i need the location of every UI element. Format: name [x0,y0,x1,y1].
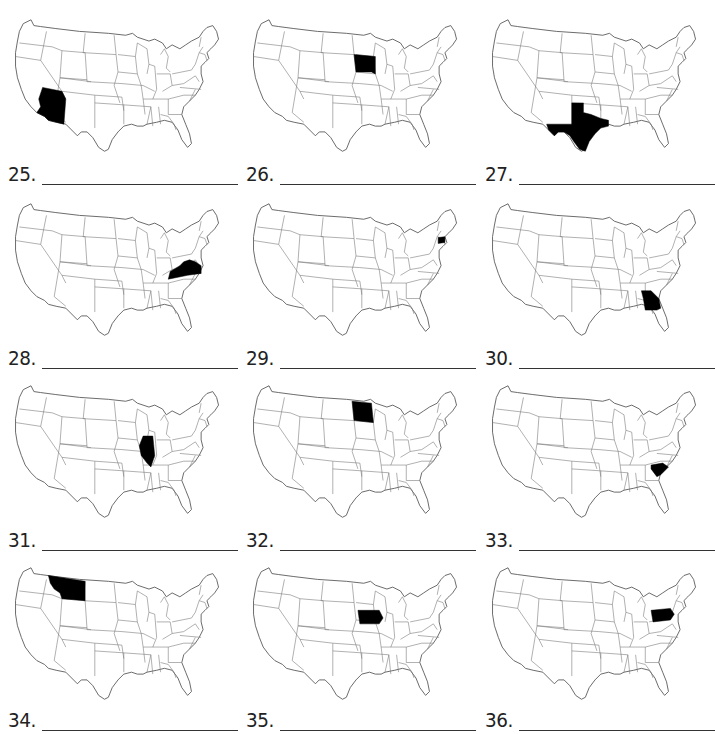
us-map-north-dakota [240,372,472,532]
question-number: 30. [485,346,513,370]
question-number: 28. [8,346,36,370]
answer-blank[interactable] [280,184,476,185]
us-map-georgia [479,190,711,350]
us-map-pennsylvania [479,554,711,714]
answer-blank[interactable] [280,368,476,369]
highlighted-state [358,610,383,624]
answer-blank[interactable] [280,550,476,551]
highlighted-state [438,237,445,244]
us-map-illinois [2,372,234,532]
us-map-montana [2,554,234,714]
us-map-south-dakota [240,6,472,166]
highlighted-state [352,401,373,422]
question-number: 27. [485,162,513,186]
answer-blank[interactable] [519,368,715,369]
highlighted-state [354,55,375,74]
us-map-arizona [2,6,234,166]
answer-blank[interactable] [519,730,715,731]
question-number: 26. [246,162,274,186]
question-number: 31. [8,528,36,552]
us-map-virginia [2,190,234,350]
answer-blank[interactable] [519,550,715,551]
answer-blank[interactable] [42,550,238,551]
us-map-texas [479,6,711,166]
answer-blank[interactable] [42,730,238,731]
highlighted-state [37,87,66,124]
question-number: 36. [485,708,513,732]
answer-blank[interactable] [280,730,476,731]
answer-blank[interactable] [42,368,238,369]
question-number: 32. [246,528,274,552]
us-map-iowa [240,554,472,714]
us-map-connecticut [240,190,472,350]
question-number: 29. [246,346,274,370]
question-number: 25. [8,162,36,186]
answer-blank[interactable] [519,184,715,185]
question-number: 34. [8,708,36,732]
question-number: 33. [485,528,513,552]
us-map-south-carolina [479,372,711,532]
answer-blank[interactable] [42,184,238,185]
question-number: 35. [246,708,274,732]
